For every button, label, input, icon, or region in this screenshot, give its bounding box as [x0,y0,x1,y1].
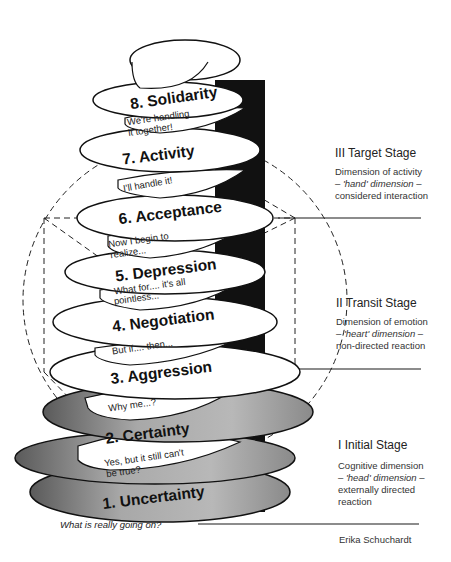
stage-iii-description: Dimension of activity – 'hand' dimension… [335,166,428,202]
dash: – [415,328,423,339]
stage-iii-title: III Target Stage [335,146,416,160]
stage-ii-desc-line1: Dimension of emotion [336,316,428,328]
stage-ii-title: II Transit Stage [336,296,417,310]
heart-dimension-text: 'heart' dimension [344,328,415,339]
stage-i-desc-line4: reaction [338,496,425,508]
stage-iii-desc-line2: – 'hand' dimension – [335,178,428,190]
dash: – [417,472,425,483]
stage-iii-desc-line1: Dimension of activity [335,166,428,178]
hand-dimension-text: 'hand' dimension [343,178,414,189]
stage-ii-description: Dimension of emotion – 'heart' dimension… [336,316,428,352]
stage-ii-desc-line2: – 'heart' dimension – [336,328,428,340]
stage-i-title: I Initial Stage [338,438,407,452]
dash: – [338,472,346,483]
stage-iii-desc-line3: considered interaction [335,190,428,202]
stage-i-desc-line1: Cognitive dimension [338,460,425,472]
author-credit: Erika Schuchardt [339,534,411,545]
dash: – [414,178,422,189]
bottom-question: What is really going on? [60,519,161,530]
coil-phase-1 [15,432,295,522]
head-dimension-text: 'head' dimension [346,472,417,483]
stage-i-desc-line2: – 'head' dimension – [338,472,425,484]
stage-i-desc-line3: externally directed [338,484,425,496]
stage-i-description: Cognitive dimension – 'head' dimension –… [338,460,425,508]
stage-ii-desc-line3: non-directed reaction [336,340,428,352]
dash: – [335,178,343,189]
dash: – [336,328,344,339]
crisis-spiral-diagram: 8. Solidarity 7. Activity 6. Acceptance … [0,0,451,562]
